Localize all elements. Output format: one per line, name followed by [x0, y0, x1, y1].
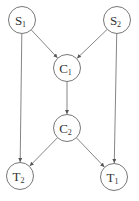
edge-c2-to-t1 [76, 138, 104, 167]
node-c2: C2 [54, 115, 81, 142]
edge-s2-to-t1 [114, 33, 116, 163]
node-t1: T1 [101, 164, 128, 191]
node-s2: S2 [104, 7, 131, 34]
edge-s1-to-t2 [20, 33, 22, 162]
diagram-canvas: S1S2C1C2T2T1 [0, 0, 139, 201]
edge-s2-to-c1 [77, 29, 107, 58]
nodes: S1S2C1C2T2T1 [7, 7, 131, 191]
edges [20, 29, 117, 167]
edge-c2-to-t2 [30, 138, 58, 166]
node-t2: T2 [7, 163, 34, 190]
edge-s1-to-c1 [31, 30, 57, 58]
node-s1: S1 [9, 7, 36, 34]
node-c1: C1 [54, 55, 81, 82]
